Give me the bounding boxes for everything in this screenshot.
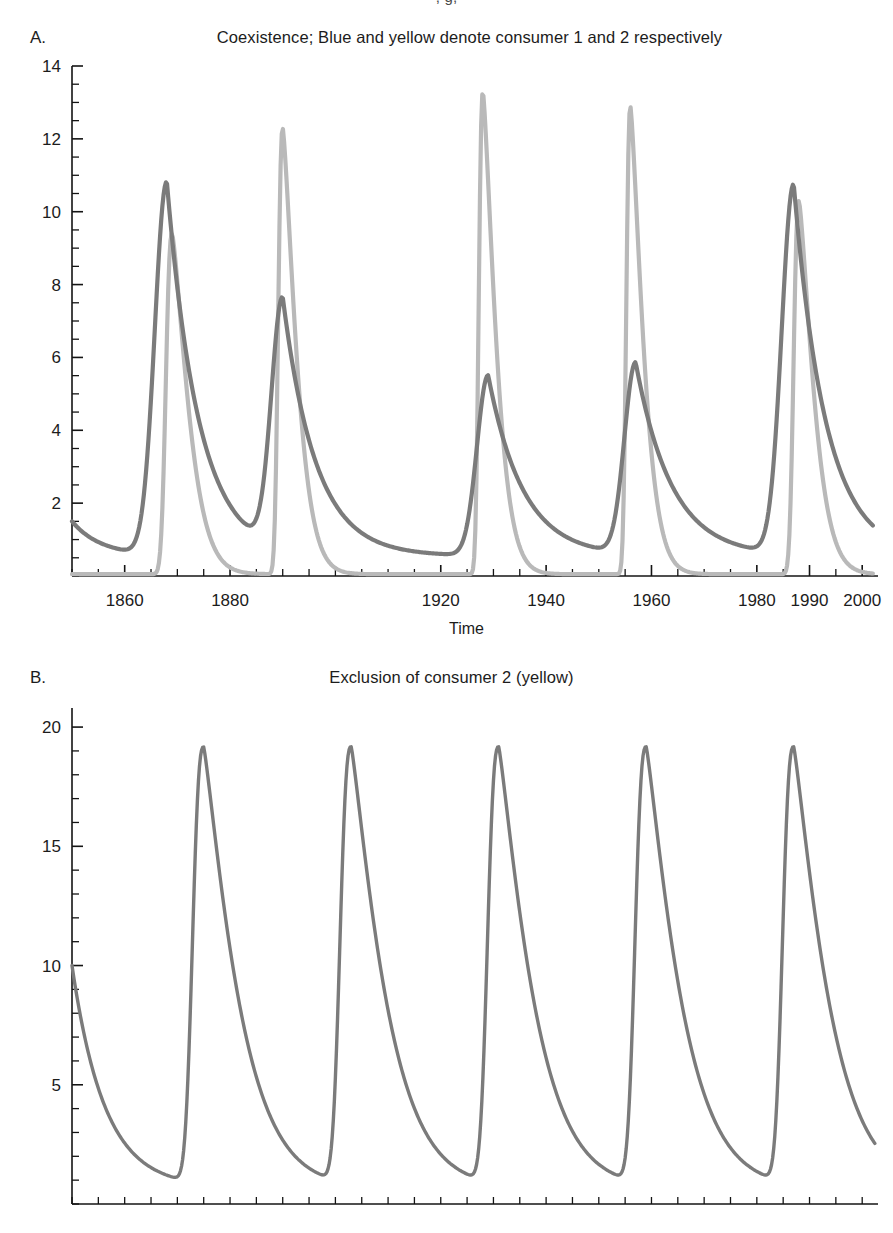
x-tick-label: 2000 [843,591,881,608]
panel-b-title: Exclusion of consumer 2 (yellow) [0,668,893,687]
series-consumer1-blue [72,747,875,1178]
y-tick-label: 8 [52,276,61,295]
series-consumer1-blue [72,182,873,554]
y-tick-label: 14 [42,57,61,76]
y-tick-label: 20 [42,718,61,737]
cropped-top-text: , g, [0,0,893,6]
panel-b-svg: 5101520 [0,694,893,1233]
x-tick-label: 1860 [106,591,144,608]
panel-a: A. Coexistence; Blue and yellow denote c… [0,28,893,648]
x-tick-label: 1960 [633,591,671,608]
y-tick-label: 2 [52,494,61,513]
panel-b-plot: 5101520 [0,694,893,1233]
panel-a-title: Coexistence; Blue and yellow denote cons… [0,28,893,47]
x-tick-label: 1920 [422,591,460,608]
x-tick-label: 1990 [791,591,829,608]
y-tick-label: 12 [42,130,61,149]
y-tick-label: 5 [52,1076,61,1095]
y-tick-label: 10 [42,203,61,222]
panel-a-plot: 2468101214186018801990192019401960198020… [0,52,893,608]
y-tick-label: 15 [42,837,61,856]
x-tick-label: 1880 [211,591,249,608]
panel-a-xlabel: Time [0,620,893,638]
panel-b: B. Exclusion of consumer 2 (yellow) 5101… [0,668,893,1233]
panel-a-svg: 2468101214186018801990192019401960198020… [0,52,893,608]
figure-root: , g, A. Coexistence; Blue and yellow den… [0,0,893,1233]
y-tick-label: 6 [52,348,61,367]
y-tick-label: 10 [42,957,61,976]
y-tick-label: 4 [52,421,61,440]
x-tick-label: 1940 [527,591,565,608]
x-tick-label: 1980 [738,591,776,608]
